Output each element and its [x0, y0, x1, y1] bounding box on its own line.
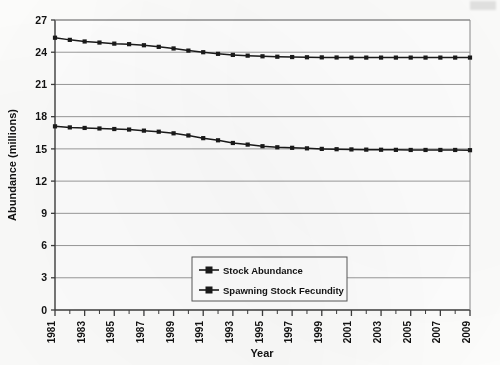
series-marker [409, 148, 413, 152]
series-marker [364, 148, 368, 152]
series-marker [423, 148, 427, 152]
x-tick-label: 2001 [342, 321, 353, 344]
series-marker [320, 55, 324, 59]
series-marker [468, 55, 472, 59]
series-marker [320, 147, 324, 151]
series-marker [349, 55, 353, 59]
series-marker [83, 39, 87, 43]
legend-marker-icon [206, 287, 213, 294]
x-tick-label: 1981 [46, 321, 57, 344]
y-tick-label: 15 [35, 143, 47, 155]
y-tick-label: 0 [41, 304, 47, 316]
series-marker [112, 42, 116, 46]
x-tick-label: 2007 [431, 321, 442, 344]
series-marker [379, 55, 383, 59]
series-marker [127, 127, 131, 131]
series-marker [201, 136, 205, 140]
chart-legend[interactable]: Stock Abundance Spawning Stock Fecundity [192, 257, 347, 301]
series-marker [142, 129, 146, 133]
y-tick-label: 3 [41, 271, 47, 283]
series-marker [53, 36, 57, 40]
series-marker [275, 145, 279, 149]
series-marker [260, 54, 264, 58]
series-marker [275, 55, 279, 59]
series-marker [157, 45, 161, 49]
x-tick-label: 1995 [254, 321, 265, 344]
x-axis-title: Year [250, 347, 274, 359]
y-tick-label: 21 [35, 78, 47, 90]
series-marker [216, 52, 220, 56]
series-marker [394, 148, 398, 152]
series-marker [453, 55, 457, 59]
x-tick-label: 1983 [76, 321, 87, 344]
legend-marker-icon [206, 267, 213, 274]
series-marker [335, 55, 339, 59]
series-marker [260, 144, 264, 148]
series-marker [68, 125, 72, 129]
series-marker [394, 55, 398, 59]
series-marker [379, 148, 383, 152]
x-tick-label: 1997 [283, 321, 294, 344]
series-marker [186, 133, 190, 137]
series-marker [246, 54, 250, 58]
x-tick-label: 2003 [372, 321, 383, 344]
series-marker [157, 130, 161, 134]
series-marker [305, 146, 309, 150]
y-tick-label: 27 [35, 14, 47, 26]
series-marker [97, 40, 101, 44]
y-tick-label: 24 [35, 46, 47, 58]
line-chart: 0369121518212427 19811983198519871989199… [0, 0, 500, 365]
x-tick-label: 1991 [194, 321, 205, 344]
x-tick-label: 2009 [461, 321, 472, 344]
y-tick-label: 6 [41, 239, 47, 251]
x-tick-label: 1989 [165, 321, 176, 344]
series-marker [468, 148, 472, 152]
series-marker [290, 146, 294, 150]
x-tick-label: 1999 [313, 321, 324, 344]
y-tick-labels-group: 0369121518212427 [35, 14, 47, 316]
series-marker [246, 142, 250, 146]
legend-label-spawning-stock-fecundity: Spawning Stock Fecundity [223, 285, 345, 296]
series-marker [201, 50, 205, 54]
series-marker [453, 148, 457, 152]
series-marker [142, 43, 146, 47]
series-marker [68, 38, 72, 42]
y-tick-label: 18 [35, 110, 47, 122]
series-marker [305, 55, 309, 59]
legend-label-stock-abundance: Stock Abundance [223, 265, 303, 276]
x-tick-label: 1985 [105, 321, 116, 344]
y-tick-label: 9 [41, 207, 47, 219]
series-marker [171, 46, 175, 50]
chart-canvas: 0369121518212427 19811983198519871989199… [0, 0, 500, 365]
series-marker [349, 147, 353, 151]
series-marker [290, 55, 294, 59]
x-tick-label: 1987 [135, 321, 146, 344]
series-marker [171, 131, 175, 135]
x-tick-label: 2005 [402, 321, 413, 344]
series-marker [438, 55, 442, 59]
series-marker [423, 55, 427, 59]
y-tick-label: 12 [35, 175, 47, 187]
series-marker [186, 49, 190, 53]
series-marker [364, 55, 368, 59]
series-marker [83, 126, 87, 130]
x-tick-label: 1993 [224, 321, 235, 344]
series-marker [335, 147, 339, 151]
chart-page: 0369121518212427 19811983198519871989199… [0, 0, 500, 365]
series-marker [216, 138, 220, 142]
series-marker [127, 42, 131, 46]
series-marker [112, 127, 116, 131]
series-marker [97, 126, 101, 130]
series-marker [231, 53, 235, 57]
series-marker [438, 148, 442, 152]
y-axis-title: Abundance (millions) [6, 109, 18, 221]
series-marker [231, 141, 235, 145]
x-tick-labels-group: 1981198319851987198919911993199519971999… [46, 321, 472, 344]
series-marker [53, 124, 57, 128]
x-tick-marks-group [55, 310, 470, 316]
series-marker [409, 55, 413, 59]
